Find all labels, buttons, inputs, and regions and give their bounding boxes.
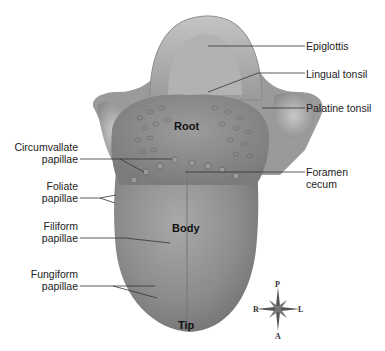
region-label-root: Root [174,120,199,132]
label-foramen-cecum-line1: Foramen [306,166,348,178]
region-label-body: Body [172,222,200,234]
label-fungiform-papillae: Fungiform papillae [31,268,78,292]
label-foliate-papillae: Foliate papillae [42,180,78,204]
compass-label-right: R [253,305,259,314]
label-foramen-cecum: Foramen cecum [306,166,348,190]
tongue-diagram: Root Body Tip Epiglottis Lingual tonsil … [0,0,385,351]
compass-label-left: L [298,305,303,314]
label-filiform-papillae: Filiform papillae [42,220,78,244]
label-circumvallate-line1: Circumvallate [14,141,78,153]
label-circumvallate-papillae: Circumvallate papillae [14,141,78,165]
compass-label-anterior: A [275,332,281,341]
compass-label-posterior: P [275,280,280,289]
label-foliate-line1: Foliate [42,180,78,192]
label-fungiform-line2: papillae [31,280,78,292]
label-fungiform-line1: Fungiform [31,268,78,280]
label-epiglottis: Epiglottis [306,40,349,52]
label-palatine-tonsil: Palatine tonsil [306,102,371,114]
region-label-tip: Tip [178,319,194,331]
compass-rose [256,287,300,331]
label-filiform-line1: Filiform [42,220,78,232]
label-foramen-cecum-line2: cecum [306,178,348,190]
label-foliate-line2: papillae [42,192,78,204]
label-circumvallate-line2: papillae [14,153,78,165]
label-lingual-tonsil: Lingual tonsil [306,68,367,80]
label-filiform-line2: papillae [42,232,78,244]
